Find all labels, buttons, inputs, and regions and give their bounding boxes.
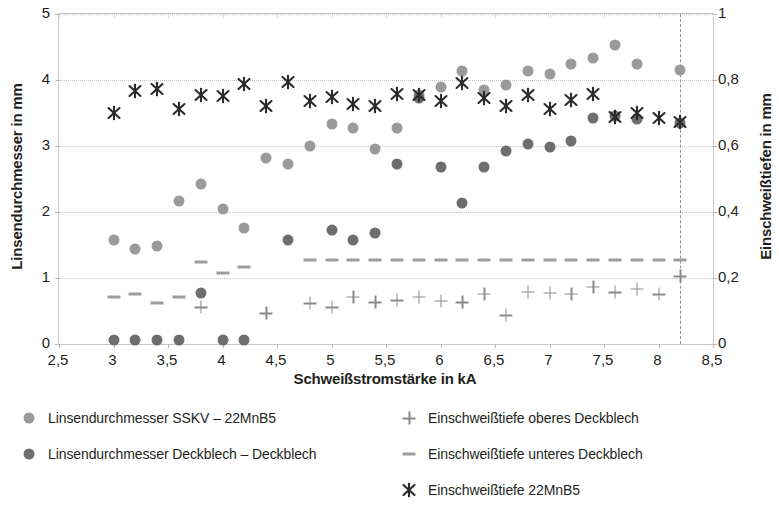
marker-x <box>237 76 252 91</box>
marker-x <box>280 75 295 90</box>
y-axis-label-right: 1 <box>718 5 758 20</box>
marker-x <box>171 102 186 117</box>
x-axis-label: 6 <box>417 352 463 367</box>
marker-x <box>607 109 622 124</box>
marker-x <box>368 98 383 113</box>
y-axis-label-right: 0,8 <box>718 71 758 86</box>
x-tick <box>659 344 660 348</box>
x-tick <box>114 344 115 348</box>
marker-circle-dark <box>24 449 35 460</box>
legend-label: Linsendurchmesser Deckblech – Deckblech <box>48 446 316 462</box>
marker-x <box>128 83 143 98</box>
x-tick <box>59 344 60 348</box>
marker-x <box>564 92 579 107</box>
y-axis-label-left: 0 <box>10 335 50 350</box>
marker-x <box>477 90 492 105</box>
x-axis-label: 3,5 <box>144 352 190 367</box>
y-axis-label-right: 0,2 <box>718 269 758 284</box>
x-axis-label: 5,5 <box>362 352 408 367</box>
chart-figure: Linsendurchmesser in mm Einschweißtiefen… <box>0 0 779 506</box>
marker-x <box>324 90 339 105</box>
x-tick <box>386 344 387 348</box>
y-axis-label-left: 4 <box>10 71 50 86</box>
y-tick-right <box>713 278 717 279</box>
x-axis-label: 6,5 <box>471 352 517 367</box>
marker-x <box>259 98 274 113</box>
marker-x <box>520 87 535 102</box>
x-tick <box>223 344 224 348</box>
x-axis-label: 2,5 <box>35 352 81 367</box>
chart-legend: Linsendurchmesser SSKV – 22MnB5Linsendur… <box>0 396 779 506</box>
x-tick <box>441 344 442 348</box>
legend-label: Einschweißtiefe unteres Deckblech <box>428 446 643 462</box>
marker-dash <box>403 453 416 456</box>
y-tick-right <box>713 80 717 81</box>
marker-x <box>215 88 230 103</box>
x-axis-label: 3 <box>90 352 136 367</box>
y-axis-label-right: 0 <box>718 335 758 350</box>
legend-label: Einschweißtiefe oberes Deckblech <box>428 410 639 426</box>
marker-x <box>542 102 557 117</box>
marker-x <box>402 483 417 498</box>
x-axis-label: 4 <box>199 352 245 367</box>
x-tick <box>604 344 605 348</box>
legend-marker <box>18 410 40 426</box>
marker-plus <box>403 412 416 425</box>
y-axis-title-right: Einschweißtiefen in mm <box>757 77 774 277</box>
x-axis-title: Schweißstromstärke in kA <box>58 370 712 387</box>
marker-x <box>389 87 404 102</box>
series-layer <box>59 14 713 344</box>
legend-label: Linsendurchmesser SSKV – 22MnB5 <box>48 410 276 426</box>
legend-marker <box>398 410 420 426</box>
x-tick <box>277 344 278 348</box>
y-tick-right <box>713 212 717 213</box>
marker-x <box>455 76 470 91</box>
y-tick-right <box>713 146 717 147</box>
y-axis-label-left: 2 <box>10 203 50 218</box>
marker-x <box>150 82 165 97</box>
y-axis-label-left: 1 <box>10 269 50 284</box>
y-axis-label-right: 0,4 <box>718 203 758 218</box>
x-tick <box>332 344 333 348</box>
x-tick <box>713 344 714 348</box>
y-axis-label-left: 3 <box>10 137 50 152</box>
marker-x <box>106 106 121 121</box>
y-axis-title-left: Linsendurchmesser in mm <box>8 77 25 277</box>
legend-marker <box>398 482 420 498</box>
x-axis-label: 5 <box>308 352 354 367</box>
y-axis-label-left: 5 <box>10 5 50 20</box>
legend-label: Einschweißtiefe 22MnB5 <box>428 482 580 498</box>
plot-area <box>58 13 714 345</box>
x-tick <box>495 344 496 348</box>
marker-x <box>629 106 644 121</box>
marker-x <box>651 110 666 125</box>
x-axis-label: 7,5 <box>580 352 626 367</box>
x-axis-label: 7 <box>526 352 572 367</box>
legend-marker <box>398 446 420 462</box>
marker-x <box>346 96 361 111</box>
marker-circle-light <box>24 413 35 424</box>
x-axis-label: 4,5 <box>253 352 299 367</box>
x-tick <box>168 344 169 348</box>
marker-x <box>586 87 601 102</box>
marker-x <box>673 115 688 130</box>
legend-marker <box>18 446 40 462</box>
marker-x <box>433 94 448 109</box>
marker-x <box>193 87 208 102</box>
x-axis-label: 8,5 <box>689 352 735 367</box>
marker-x <box>498 98 513 113</box>
x-tick <box>550 344 551 348</box>
marker-x <box>411 87 426 102</box>
x-axis-label: 8 <box>635 352 681 367</box>
y-axis-label-right: 0,6 <box>718 137 758 152</box>
x-tick-top <box>713 14 714 18</box>
marker-x <box>302 94 317 109</box>
